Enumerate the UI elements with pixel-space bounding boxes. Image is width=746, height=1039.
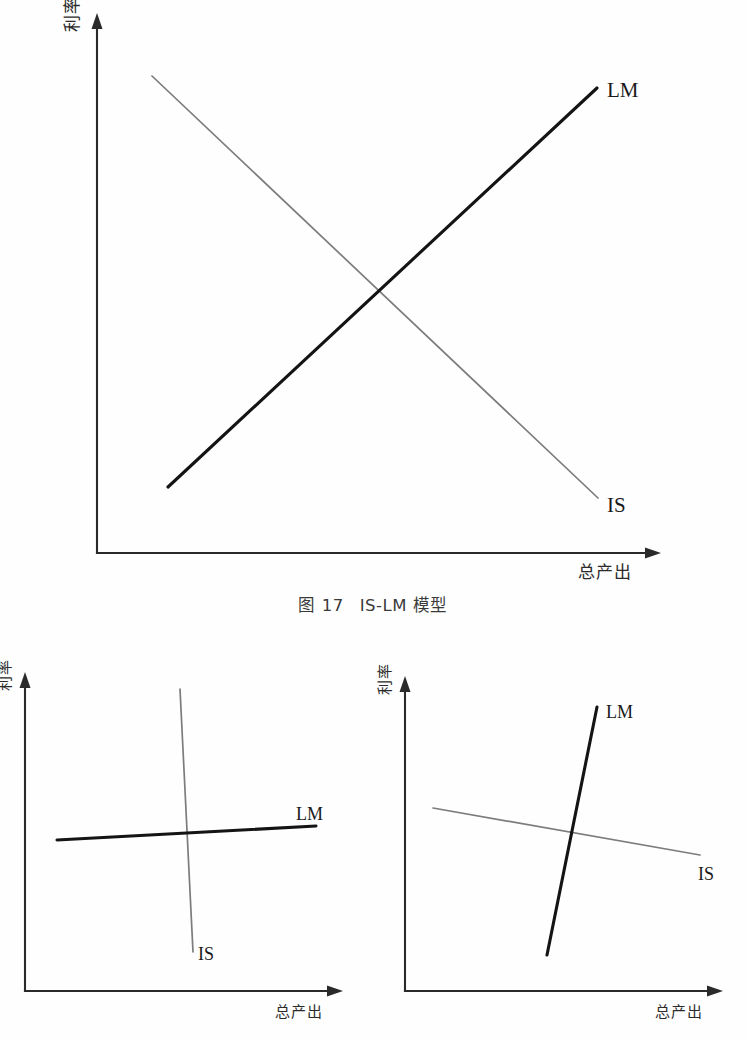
lm-curve-label: LM xyxy=(606,702,633,722)
figure-page: 利率 总产出 LM IS 图 17IS-LM 模型 xyxy=(0,0,746,1039)
y-axis-arrow-icon xyxy=(20,672,31,688)
y-axis-group xyxy=(20,672,31,991)
is-curve xyxy=(152,76,598,498)
chart-steep-is-flat-lm: 利率 总产出 LM IS xyxy=(0,655,373,1039)
x-axis-label: 总产出 xyxy=(578,562,632,582)
figure-title: IS-LM 模型 xyxy=(360,596,448,615)
x-axis-group xyxy=(25,986,343,997)
lm-curve-label: LM xyxy=(296,804,323,824)
figure-caption: 图 17IS-LM 模型 xyxy=(0,592,746,616)
is-curve xyxy=(180,689,193,952)
x-axis-arrow-icon xyxy=(327,986,343,997)
x-axis-arrow-icon xyxy=(645,548,661,559)
figure-number: 图 17 xyxy=(298,596,343,615)
is-curve xyxy=(433,808,700,855)
x-axis-label: 总产出 xyxy=(655,1003,703,1021)
y-axis-arrow-icon xyxy=(92,13,103,29)
y-axis-group xyxy=(92,13,103,553)
y-axis-group xyxy=(400,676,411,991)
x-axis-group xyxy=(97,548,661,559)
is-curve-label: IS xyxy=(698,864,714,884)
y-axis-arrow-icon xyxy=(400,676,411,692)
lm-curve xyxy=(547,707,597,955)
y-axis-label: 利率 xyxy=(0,659,14,691)
x-axis-group xyxy=(405,986,723,997)
lm-curve-label: LM xyxy=(607,78,639,102)
x-axis-arrow-icon xyxy=(707,986,723,997)
chart-lower-right-svg: 利率 总产出 LM IS xyxy=(373,655,746,1039)
lm-curve xyxy=(168,88,597,487)
chart-lower-left-svg: 利率 总产出 LM IS xyxy=(0,655,373,1039)
chart-flat-is-steep-lm: 利率 总产出 LM IS xyxy=(373,655,746,1039)
chart-is-lm-model: 利率 总产出 LM IS xyxy=(0,0,746,585)
x-axis-label: 总产出 xyxy=(275,1003,323,1021)
is-curve-label: IS xyxy=(198,944,214,964)
y-axis-label: 利率 xyxy=(62,0,82,32)
y-axis-label: 利率 xyxy=(376,663,394,695)
is-curve-label: IS xyxy=(607,493,626,517)
chart-main-svg: 利率 总产出 LM IS xyxy=(0,0,746,585)
